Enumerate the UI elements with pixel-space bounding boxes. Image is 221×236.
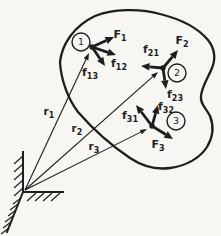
- figure: r1r2r3F1f12f13F2f21f23f31f32F3123: [0, 0, 221, 236]
- position-vector-label-r3: r3: [89, 140, 100, 155]
- force-arrow-f21-arrowhead: [141, 63, 150, 70]
- force-label-f23: f23: [167, 88, 183, 103]
- force-label-F2: F2: [175, 34, 188, 49]
- particle-number-2: 2: [174, 67, 180, 78]
- position-vector-label-r1: r1: [44, 105, 55, 120]
- support-ground-hatch-0: [27, 193, 36, 201]
- force-label-F3-subscript: 3: [159, 144, 165, 153]
- support-wall-hatch-3: [14, 180, 23, 188]
- support-ground-hatch-1: [35, 193, 44, 201]
- support-wall-hatch-1: [14, 164, 23, 172]
- force-label-f23-subscript: 23: [172, 94, 183, 103]
- force-label-F2-subscript: 2: [183, 40, 189, 49]
- force-label-f12: f12: [111, 57, 127, 72]
- position-vector-r1-shaft: [25, 59, 86, 190]
- force-label-f13-subscript: 13: [87, 72, 98, 81]
- position-vector-label-r1-subscript: 1: [49, 111, 55, 120]
- particle-number-3: 3: [173, 115, 179, 126]
- support-wall-hatch-0: [14, 156, 23, 164]
- force-label-f12-subscript: 12: [116, 63, 127, 72]
- force-label-f31: f31: [122, 109, 138, 124]
- force-arrow-f12-arrowhead: [107, 49, 116, 56]
- position-vector-r3-arrowhead: [140, 129, 147, 134]
- position-vector-r2-shaft: [25, 77, 153, 190]
- force-label-F1: F1: [113, 28, 127, 43]
- support-wall-hatch-2: [14, 172, 23, 180]
- position-vector-r3-shaft: [25, 132, 141, 190]
- particle-dot-3: [149, 123, 154, 128]
- mechanics-diagram: r1r2r3F1f12f13F2f21f23f31f32F3123: [0, 0, 221, 236]
- support-ground-hatch-3: [51, 193, 60, 201]
- force-label-f21-subscript: 21: [148, 49, 160, 58]
- force-label-f31-subscript: 31: [127, 115, 139, 124]
- position-vector-label-r2-subscript: 2: [77, 128, 83, 137]
- force-label-f21: f21: [143, 43, 159, 58]
- force-label-f13: f13: [82, 66, 98, 81]
- particle-number-1: 1: [78, 36, 84, 47]
- position-vector-label-r2: r2: [72, 122, 83, 137]
- support-ground-hatch-2: [43, 193, 52, 201]
- force-label-F1-subscript: 1: [121, 34, 127, 43]
- particle-dot-2: [160, 65, 165, 70]
- position-vector-label-r3-subscript: 3: [94, 146, 100, 155]
- force-label-F3: F3: [151, 138, 164, 153]
- position-vector-r1-arrowhead: [84, 53, 89, 60]
